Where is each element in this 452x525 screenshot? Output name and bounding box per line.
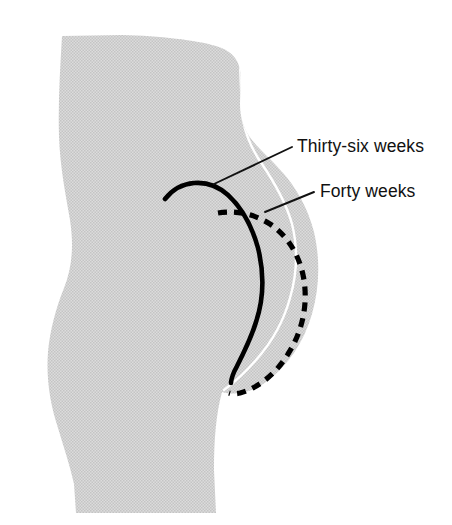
diagram-canvas: Thirty-six weeks Forty weeks bbox=[0, 0, 452, 525]
label-forty-weeks: Forty weeks bbox=[320, 181, 416, 201]
body-fill bbox=[47, 35, 318, 513]
thirty-six-week-contour-upper bbox=[240, 66, 243, 120]
label-thirty-six-weeks: Thirty-six weeks bbox=[297, 136, 424, 156]
pregnant-woman-profile-silhouette bbox=[47, 35, 318, 513]
fundal-height-diagram: Thirty-six weeks Forty weeks bbox=[0, 0, 452, 525]
